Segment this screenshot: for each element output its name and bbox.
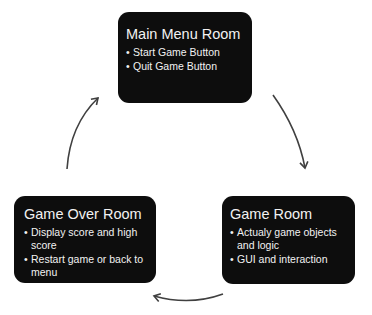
- node-title: Game Room: [230, 205, 349, 223]
- node-items: Actualy game objects and logic GUI and i…: [230, 226, 349, 266]
- node-item: GUI and interaction: [230, 253, 349, 266]
- node-title: Game Over Room: [24, 205, 148, 223]
- node-item: Start Game Button: [126, 46, 252, 59]
- node-item: Restart game or back to menu: [24, 253, 148, 279]
- node-item: Display score and high score: [24, 226, 148, 252]
- node-game-over-room: Game Over Room Display score and high sc…: [14, 196, 156, 283]
- node-items: Start Game Button Quit Game Button: [126, 46, 252, 73]
- node-items: Display score and high score Restart gam…: [24, 226, 148, 279]
- arrow-game-to-over: [154, 294, 223, 301]
- node-title: Main Menu Room: [126, 25, 252, 43]
- node-game-room: Game Room Actualy game objects and logic…: [222, 196, 355, 284]
- node-main-menu-room: Main Menu Room Start Game Button Quit Ga…: [118, 12, 252, 103]
- arrow-main-to-game: [273, 95, 305, 168]
- node-item: Actualy game objects and logic: [230, 226, 349, 252]
- node-item: Quit Game Button: [126, 60, 252, 73]
- arrow-over-to-main: [67, 98, 98, 169]
